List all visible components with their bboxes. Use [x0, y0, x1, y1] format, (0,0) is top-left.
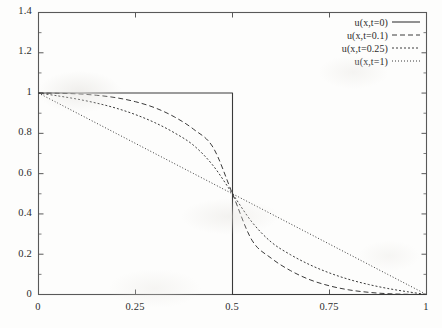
- x-tick-label-0: 0: [24, 301, 52, 312]
- y-tick-label-7: 1.4: [8, 5, 32, 16]
- chart-figure: 0 0.2 0.4 0.6 0.8 1 1.2 1.4 0 0.25 0.5 0…: [0, 0, 442, 328]
- y-tick-label-5: 1: [8, 86, 32, 97]
- legend-label-1: u(x,t=0.1): [298, 30, 388, 41]
- y-tick-label-4: 0.8: [8, 126, 32, 137]
- x-tick-label-4: 1: [412, 301, 440, 312]
- x-tick-label-3: 0.75: [315, 301, 343, 312]
- legend-label-0: u(x,t=0): [298, 17, 388, 28]
- data-series-group: [39, 93, 427, 294]
- y-tick-label-3: 0.6: [8, 167, 32, 178]
- x-tick-label-2: 0.5: [218, 301, 246, 312]
- series-line-0: [39, 93, 427, 294]
- legend-line-samples: [392, 22, 420, 61]
- y-tick-label-6: 1.2: [8, 45, 32, 56]
- x-tick-label-1: 0.25: [121, 301, 149, 312]
- legend-label-2: u(x,t=0.25): [298, 43, 388, 54]
- y-tick-label-2: 0.4: [8, 207, 32, 218]
- y-tick-label-1: 0.2: [8, 248, 32, 259]
- legend-label-3: u(x,t=1): [298, 56, 388, 67]
- y-tick-label-0: 0: [8, 288, 32, 299]
